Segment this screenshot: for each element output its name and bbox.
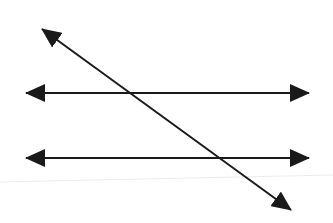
transversal-line [42, 29, 291, 210]
diagram-canvas: Two parallel lines cut by a transversal [0, 0, 333, 223]
faint-background-line [0, 175, 333, 182]
parallel-lines-transversal-diagram [0, 0, 333, 223]
